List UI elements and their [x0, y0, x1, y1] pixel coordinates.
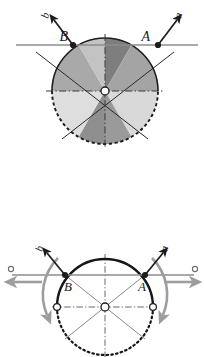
- arc-point-b-label: B: [64, 279, 72, 294]
- disc-center-marker: [101, 87, 109, 95]
- vector-b-label: b: [38, 11, 51, 20]
- axis-left-end-marker: [8, 266, 13, 271]
- vector-a-label: a: [171, 11, 184, 20]
- sectored-disc-panel: B A b a: [0, 0, 204, 180]
- arc-point-a-dot: [142, 272, 148, 278]
- point-b-label: B: [59, 29, 68, 44]
- vector-a-arrow: [158, 20, 177, 45]
- velocity-arc-panel: B A b a: [0, 230, 204, 357]
- arc-vector-b-arrow: [47, 253, 65, 275]
- figure-root: B A b a: [0, 0, 204, 357]
- arc-vector-b-label: b: [33, 245, 45, 253]
- point-b-dot: [70, 42, 76, 48]
- velocity-arc-svg: B A b a: [0, 230, 204, 357]
- arc-right-end-marker: [150, 304, 157, 311]
- point-a-dot: [155, 42, 161, 48]
- sectored-disc-svg: B A b a: [0, 0, 204, 180]
- arc-center-marker: [101, 303, 109, 311]
- arc-point-b-dot: [62, 272, 68, 278]
- arc-vector-a-arrow: [145, 253, 163, 275]
- axis-right-end-marker: [192, 266, 197, 271]
- arc-left-end-marker: [54, 304, 61, 311]
- arc-point-a-label: A: [137, 279, 146, 294]
- point-a-label: A: [140, 29, 150, 44]
- arc-vector-a-label: a: [158, 245, 170, 253]
